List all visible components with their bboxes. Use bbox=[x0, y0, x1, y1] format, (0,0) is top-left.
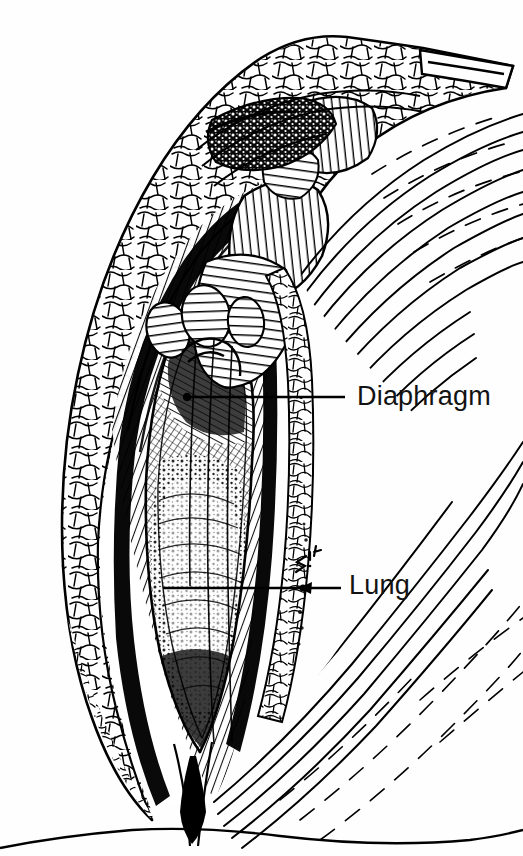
anatomy-illustration bbox=[0, 0, 523, 856]
label-lung: Lung bbox=[349, 572, 410, 599]
illustration-canvas: Diaphragm Lung bbox=[0, 0, 523, 856]
label-diaphragm: Diaphragm bbox=[357, 383, 491, 410]
